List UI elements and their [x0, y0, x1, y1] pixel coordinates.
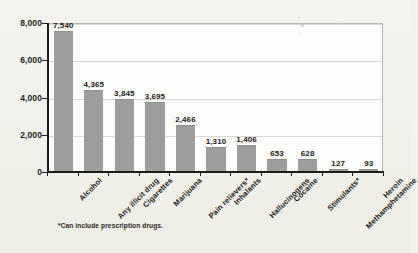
bar[interactable] [237, 145, 256, 171]
x-axis-tick [139, 171, 140, 176]
bar-slot: 1,406 [237, 23, 256, 171]
bar-slot: 4,365 [84, 23, 103, 171]
x-axis-tick [261, 171, 262, 176]
x-axis-tick [108, 171, 109, 176]
scan-speckle [300, 33, 302, 35]
x-axis-tick [200, 171, 201, 176]
x-axis-line [47, 171, 383, 173]
scan-speckle [301, 24, 304, 27]
x-axis-tick [230, 171, 231, 176]
bar-slot: 7,540 [54, 23, 73, 171]
y-axis-tick-label: 4,000 [20, 93, 42, 103]
bar[interactable] [115, 99, 134, 171]
x-axis-tick [383, 171, 384, 176]
scan-speckle [342, 22, 344, 24]
bar-slot: 93 [359, 23, 378, 171]
bar[interactable] [206, 147, 225, 171]
bar-slot: 653 [267, 23, 286, 171]
bar-value-label: 628 [301, 149, 315, 158]
x-axis-tick [352, 171, 353, 176]
bar-value-label: 4,365 [84, 80, 105, 89]
x-axis-tick [78, 171, 79, 176]
x-axis-tick [291, 171, 292, 176]
bar-slot: 3,845 [115, 23, 134, 171]
x-axis-tick-label: Marijuana [171, 176, 203, 208]
bar[interactable] [84, 90, 103, 171]
chart-footnote: *Can include prescription drugs. [58, 222, 163, 229]
bar[interactable] [145, 102, 164, 171]
bar-slot: 2,466 [176, 23, 195, 171]
bar-value-label: 127 [331, 159, 345, 168]
x-axis-tick [322, 171, 323, 176]
bar-value-label: 3,695 [145, 92, 166, 101]
x-axis-tick-label: Stimulants* [326, 176, 363, 213]
bar-value-label: 93 [364, 159, 373, 168]
bar-slot: 127 [329, 23, 348, 171]
bar-value-label: 7,540 [53, 21, 74, 30]
bar-value-label: 653 [270, 149, 284, 158]
bar-value-label: 2,466 [175, 115, 196, 124]
x-axis-tick [47, 171, 48, 176]
x-axis-tick [169, 171, 170, 176]
bar[interactable] [329, 169, 348, 171]
bar[interactable] [54, 31, 73, 171]
bar-slot: 1,310 [206, 23, 225, 171]
bar[interactable] [298, 159, 317, 171]
bar-value-label: 3,845 [114, 89, 135, 98]
bar-value-label: 1,406 [236, 135, 257, 144]
bar-slot: 628 [298, 23, 317, 171]
bar[interactable] [359, 169, 378, 171]
scan-speckle [298, 16, 300, 19]
y-axis-tick-label: 6,000 [20, 55, 42, 65]
bar-value-label: 1,310 [206, 137, 227, 146]
bar[interactable] [267, 159, 286, 171]
y-axis-tick-label: 2,000 [20, 130, 42, 140]
bar-slot: 3,695 [145, 23, 164, 171]
bar[interactable] [176, 125, 195, 171]
x-axis-tick-label: Alcohol [77, 176, 104, 203]
bar-series: 7,5404,3653,8453,6952,4661,3101,40665362… [48, 23, 382, 171]
y-axis-tick-label: 8,000 [20, 18, 42, 28]
